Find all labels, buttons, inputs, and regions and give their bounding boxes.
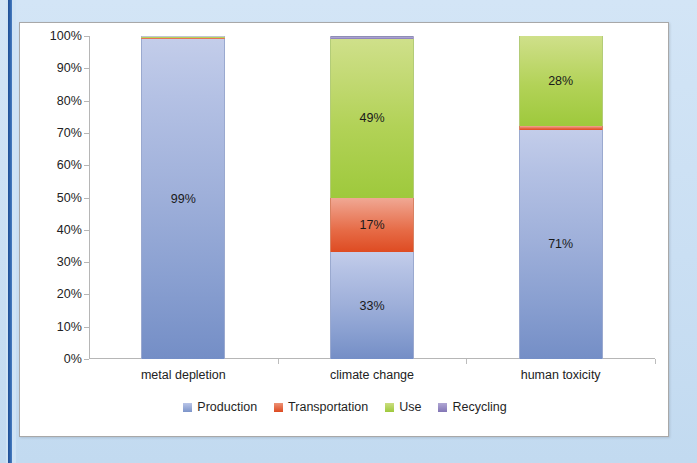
bar-column[interactable]: 49%17%33%: [330, 36, 414, 359]
bar-segment-value-label: 49%: [331, 111, 413, 125]
bar-segment-value-label: 17%: [331, 218, 413, 232]
legend-swatch-icon: [274, 403, 283, 412]
bar-segment-value-label: 33%: [331, 299, 413, 313]
y-axis-tick-label: 60%: [36, 159, 82, 172]
x-axis-tick-mark: [655, 359, 656, 364]
y-axis-tick-mark: [84, 294, 89, 295]
chart-panel: 100%90%80%70%60%50%40%30%20%10%0% 99%49%…: [19, 22, 669, 437]
x-axis-category-label: metal depletion: [89, 368, 278, 382]
y-axis-tick-label: 100%: [36, 30, 82, 43]
bar-column[interactable]: 99%: [141, 36, 225, 359]
legend-swatch-icon: [385, 403, 394, 412]
x-axis-category-label: climate change: [278, 368, 467, 382]
chart-legend: ProductionTransportationUseRecycling: [20, 400, 670, 414]
y-axis-tick-mark: [84, 101, 89, 102]
legend-item-production[interactable]: Production: [183, 400, 257, 414]
y-axis-tick-label: 50%: [36, 191, 82, 204]
bar-segment-production[interactable]: 33%: [330, 252, 414, 359]
x-axis-tick-mark: [466, 359, 467, 364]
legend-item-label: Use: [399, 400, 421, 414]
y-axis-tick-label: 70%: [36, 127, 82, 140]
left-accent-bar: [8, 0, 12, 463]
y-axis-line: [89, 36, 90, 359]
y-axis-tick-mark: [84, 36, 89, 37]
y-axis-tick-mark: [84, 359, 89, 360]
bar-segment-value-label: 28%: [520, 74, 602, 88]
y-axis-tick-mark: [84, 262, 89, 263]
bar-segment-value-label: 71%: [520, 237, 602, 251]
legend-item-transportation[interactable]: Transportation: [274, 400, 368, 414]
y-axis-tick-label: 80%: [36, 94, 82, 107]
legend-item-use[interactable]: Use: [385, 400, 421, 414]
y-axis-tick-mark: [84, 165, 89, 166]
y-axis-tick-mark: [84, 198, 89, 199]
legend-swatch-icon: [183, 403, 192, 412]
bar-segment-production[interactable]: 71%: [519, 130, 603, 359]
bar-column[interactable]: 28%1%71%: [519, 36, 603, 359]
y-axis-tick-label: 20%: [36, 288, 82, 301]
legend-item-recycling[interactable]: Recycling: [438, 400, 506, 414]
bar-segment-transportation[interactable]: 17%: [330, 198, 414, 253]
y-axis-tick-label: 40%: [36, 224, 82, 237]
y-axis-tick-mark: [84, 133, 89, 134]
y-axis-tick-label: 90%: [36, 62, 82, 75]
y-axis-tick-mark: [84, 327, 89, 328]
x-axis-category-label: human toxicity: [466, 368, 655, 382]
legend-item-label: Transportation: [288, 400, 368, 414]
bar-segment-use[interactable]: 28%: [519, 36, 603, 126]
bar-segment-use[interactable]: 49%: [330, 39, 414, 197]
x-axis-tick-mark: [278, 359, 279, 364]
y-axis-tick-mark: [84, 68, 89, 69]
y-axis-tick-mark: [84, 230, 89, 231]
y-axis-tick-label: 30%: [36, 256, 82, 269]
legend-item-label: Production: [197, 400, 257, 414]
y-axis-tick-label: 0%: [36, 353, 82, 366]
legend-swatch-icon: [438, 403, 447, 412]
bar-segment-value-label: 99%: [142, 192, 224, 206]
y-axis-tick-label: 10%: [36, 320, 82, 333]
y-axis-tick-labels: 100%90%80%70%60%50%40%30%20%10%0%: [36, 23, 82, 438]
legend-item-label: Recycling: [452, 400, 506, 414]
plot-area: 100%90%80%70%60%50%40%30%20%10%0% 99%49%…: [20, 23, 670, 438]
bar-segment-production[interactable]: 99%: [141, 39, 225, 359]
